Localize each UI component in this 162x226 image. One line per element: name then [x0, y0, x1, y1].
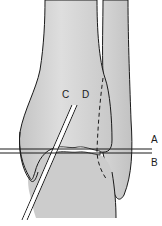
label-b: B [151, 158, 158, 168]
ankle-diagram [0, 0, 162, 226]
label-a: A [151, 135, 158, 145]
label-d: D [82, 90, 89, 100]
label-c: C [62, 90, 69, 100]
